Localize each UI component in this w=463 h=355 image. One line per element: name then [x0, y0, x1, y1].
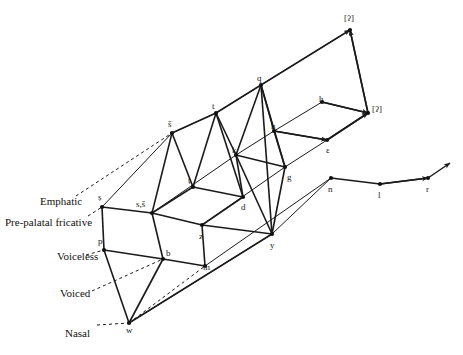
- lattice-edge: [331, 178, 380, 184]
- lattice-edge: [152, 213, 163, 259]
- node-label-l: l: [378, 191, 381, 200]
- node-label-y: y: [270, 241, 275, 250]
- arrow-to-glottal-upper-vertical: [350, 30, 368, 113]
- node-dot-p: [102, 248, 106, 252]
- lattice-rail: [102, 133, 172, 207]
- node-dot-glottal-stop-lower: [366, 111, 370, 115]
- phonological-lattice-diagram: ṣs,ššṭztdkqgḥyεh[ʔ][ʔ]pbmwnlr EmphaticPr…: [0, 0, 463, 355]
- lattice-edge: [193, 187, 243, 197]
- row-label-voiceless: Voiceless: [57, 250, 98, 262]
- node-dot-t-emphatic: [191, 185, 195, 189]
- node-label-g: g: [287, 173, 292, 182]
- node-label-sh-top: š: [168, 120, 172, 129]
- lattice-edge: [274, 131, 285, 167]
- node-dot-y: [270, 232, 274, 236]
- leader-line: [97, 323, 129, 325]
- node-dot-d: [241, 195, 245, 199]
- node-dot-ayin: [325, 138, 329, 142]
- lattice-edge: [216, 85, 261, 113]
- node-label-glottal-stop-lower: [ʔ]: [372, 105, 382, 114]
- node-dot-s-emphatic: [100, 205, 104, 209]
- node-label-p: p: [98, 237, 103, 246]
- diagram-edges-layer: [0, 0, 463, 355]
- node-dot-r: [426, 176, 430, 180]
- arrow-h-pharyngeal-to-ayin: [274, 131, 327, 140]
- arrow-to-r: [380, 178, 428, 184]
- row-label-voiced: Voiced: [60, 287, 90, 299]
- node-label-w: w: [126, 326, 133, 335]
- node-label-h-pharyngeal: ḥ: [271, 122, 276, 131]
- lattice-edge: [163, 259, 205, 266]
- node-dot-z: [200, 223, 204, 227]
- node-dot-s-sh: [150, 211, 154, 215]
- lattice-edge: [236, 155, 285, 167]
- lattice-rails-group: [102, 30, 350, 323]
- node-label-n: n: [328, 185, 333, 194]
- lattice-edge: [104, 250, 163, 259]
- node-label-r: r: [426, 185, 429, 194]
- lattice-edge: [152, 213, 202, 225]
- node-label-s-sh: s,š: [136, 200, 145, 209]
- node-label-b: b: [166, 249, 171, 258]
- node-dot-sh-top: [170, 131, 174, 135]
- node-label-s-emphatic: ṣ: [98, 193, 102, 202]
- node-dots-group: [100, 28, 430, 325]
- node-dot-b: [161, 257, 165, 261]
- leader-lines-group: [76, 133, 205, 325]
- lattice-rail: [205, 178, 331, 266]
- arrow-edges-group: [261, 30, 450, 184]
- row-label-emphatic: Emphatic: [40, 195, 82, 207]
- row-label-nasal: Nasal: [65, 327, 90, 339]
- leader-line: [76, 133, 172, 196]
- lattice-rail: [285, 140, 327, 167]
- lattice-rail: [236, 131, 274, 155]
- leader-line: [92, 259, 163, 291]
- node-dot-n: [329, 176, 333, 180]
- lattice-rail: [274, 102, 322, 131]
- node-dot-glottal-stop-upper: [348, 28, 352, 32]
- leader-line: [88, 207, 102, 216]
- node-dot-t: [214, 111, 218, 115]
- leader-line: [129, 266, 205, 323]
- node-dot-l: [378, 182, 382, 186]
- lattice-edge: [129, 234, 272, 323]
- lattice-edge: [129, 259, 163, 323]
- arrow-to-glottal-lower-ayin: [327, 113, 368, 140]
- lattice-edge: [193, 113, 216, 187]
- arrow-to-glottal-lower-h: [322, 102, 368, 113]
- lattice-edge: [172, 113, 216, 133]
- node-label-k: k: [232, 146, 237, 155]
- arrow-to-glottal-upper: [261, 30, 350, 85]
- node-label-ayin: ε: [326, 146, 330, 155]
- node-label-d: d: [241, 203, 246, 212]
- node-label-q: q: [257, 74, 262, 83]
- lattice-edge: [236, 85, 261, 155]
- arrow-right-tip: [428, 163, 450, 178]
- node-label-t-emphatic: ṭ: [188, 176, 191, 185]
- node-dot-g: [283, 165, 287, 169]
- node-label-h: h: [319, 95, 324, 104]
- row-label-pre-palatal-fricative: Pre-palatal fricative: [5, 216, 92, 228]
- node-dot-q: [259, 83, 263, 87]
- node-label-m: m: [203, 263, 210, 272]
- node-label-t: t: [212, 102, 215, 111]
- node-label-glottal-stop-upper: [ʔ]: [344, 14, 354, 23]
- lattice-edge: [104, 250, 129, 323]
- lattice-edges-group: [102, 30, 428, 323]
- lattice-edge: [202, 197, 243, 225]
- node-label-z: z: [199, 232, 203, 241]
